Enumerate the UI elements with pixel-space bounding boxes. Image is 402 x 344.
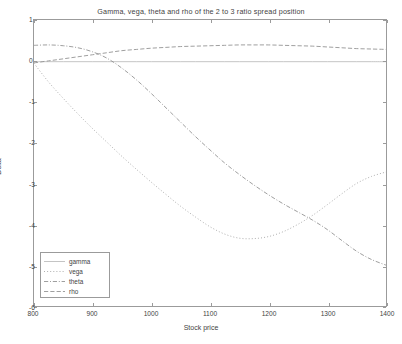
y-tick-mark — [383, 185, 386, 186]
y-tick-label: 1 — [29, 16, 33, 23]
x-tick-label: 1300 — [321, 310, 336, 317]
legend-item-rho[interactable]: rho — [41, 286, 109, 296]
x-tick-mark — [152, 303, 153, 306]
legend-item-theta[interactable]: theta — [41, 276, 109, 286]
x-tick-label: 1000 — [144, 310, 159, 317]
x-tick-mark — [270, 20, 271, 23]
x-tick-label: 1200 — [262, 310, 277, 317]
y-tick-label: -4 — [29, 221, 35, 228]
y-axis-title: Delta — [0, 158, 2, 174]
x-tick-mark — [211, 303, 212, 306]
series-line-rho — [34, 45, 386, 63]
y-tick-mark — [383, 102, 386, 103]
legend-item-gamma[interactable]: gamma — [41, 256, 109, 266]
y-tick-mark — [383, 61, 386, 62]
x-tick-label: 900 — [86, 310, 97, 317]
legend-item-vega[interactable]: vega — [41, 266, 109, 276]
legend-line-sample-vega — [44, 268, 65, 275]
x-tick-mark — [329, 20, 330, 23]
legend-label: vega — [69, 268, 83, 275]
x-tick-label: 1100 — [203, 310, 217, 317]
series-line-theta — [34, 45, 386, 265]
series-line-vega — [34, 63, 386, 238]
legend-label: gamma — [69, 258, 90, 265]
y-tick-mark — [383, 226, 386, 227]
y-tick-label: -6 — [29, 304, 35, 311]
x-tick-mark — [211, 20, 212, 23]
y-tick-label: -2 — [29, 139, 35, 146]
y-tick-mark — [383, 20, 386, 21]
figure-canvas: Gamma, vega, theta and rho of the 2 to 3… — [0, 0, 402, 344]
x-tick-mark — [270, 303, 271, 306]
x-tick-label: 1400 — [380, 310, 395, 317]
chart-title: Gamma, vega, theta and rho of the 2 to 3… — [0, 7, 402, 16]
y-tick-label: -1 — [29, 98, 35, 105]
legend-line-sample-theta — [44, 278, 65, 285]
y-tick-mark — [383, 143, 386, 144]
x-tick-mark — [387, 20, 388, 23]
y-tick-label: 0 — [29, 57, 33, 64]
x-axis-title: Stock price — [0, 324, 402, 331]
legend-line-sample-gamma — [44, 258, 65, 265]
y-tick-mark — [383, 267, 386, 268]
legend-label: rho — [69, 288, 78, 295]
x-tick-mark — [93, 303, 94, 306]
y-tick-mark — [34, 20, 37, 21]
x-tick-label: 800 — [27, 310, 38, 317]
legend-label: theta — [69, 278, 83, 285]
x-tick-mark — [152, 20, 153, 23]
y-tick-label: -3 — [29, 180, 35, 187]
y-tick-label: -5 — [29, 262, 35, 269]
x-tick-mark — [329, 303, 330, 306]
legend-box: gammavegathetarho — [40, 252, 110, 298]
legend-line-sample-rho — [44, 288, 65, 295]
x-tick-mark — [387, 303, 388, 306]
y-tick-mark — [383, 307, 386, 308]
x-tick-mark — [93, 20, 94, 23]
y-tick-mark — [34, 61, 37, 62]
